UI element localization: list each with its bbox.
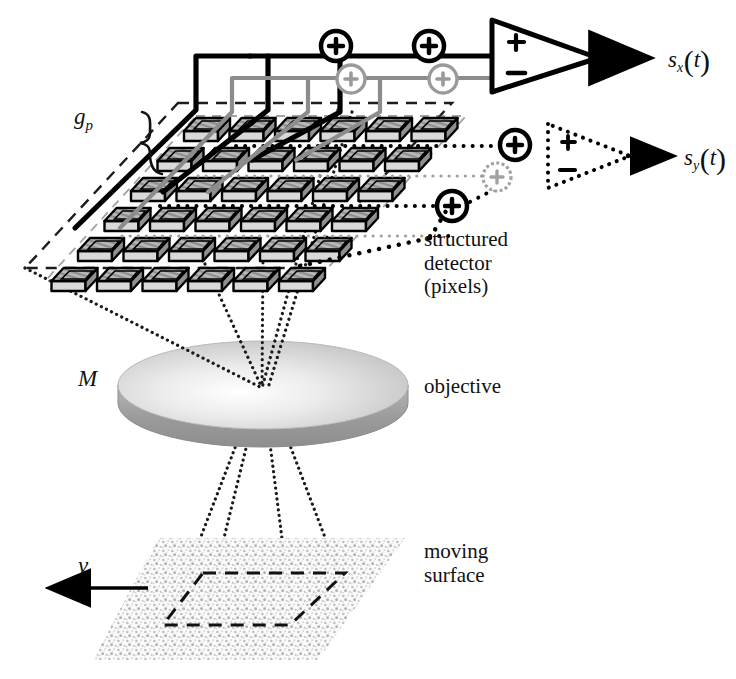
amplifier-y[interactable] — [548, 124, 672, 188]
signal-y-subscript: y — [693, 158, 700, 173]
detector-pixel — [124, 238, 170, 261]
figure-canvas: gp M v structured detector (pixels) obje… — [0, 0, 736, 679]
moving-surface-label: moving surface — [424, 540, 488, 587]
summing-junction-y-positive-1[interactable] — [500, 130, 530, 160]
diagram-svg — [0, 0, 736, 679]
detector-pixel — [234, 268, 280, 291]
signal-x-close-paren: ) — [700, 44, 710, 77]
signal-y-close-paren: ) — [716, 142, 726, 175]
detector-pixel — [196, 208, 242, 231]
summing-junction-y-negative-1[interactable] — [483, 163, 511, 191]
detector-pixel — [287, 208, 333, 231]
objective-label: objective — [424, 375, 501, 399]
detector-pixel — [150, 208, 196, 231]
detector-pixel — [268, 178, 314, 201]
pixel-pitch-label: gp — [74, 104, 93, 133]
detector-pixel — [385, 148, 431, 171]
detector-pixel — [143, 268, 189, 291]
signal-x-open-paren: ( — [684, 44, 694, 77]
detector-pixel — [279, 268, 325, 291]
velocity-label: v — [78, 553, 88, 579]
signal-x-label: sx(t) — [668, 44, 710, 78]
detector-pixel — [366, 118, 412, 141]
signal-x-subscript: x — [677, 60, 684, 75]
magnification-label: M — [78, 366, 97, 392]
detector-pixel — [169, 238, 215, 261]
detector-pixel — [52, 268, 98, 291]
moving-surface — [93, 538, 405, 660]
detector-pixel — [340, 148, 386, 171]
summing-junction-x-negative-2[interactable] — [429, 65, 457, 93]
signal-x-symbol: s — [668, 47, 677, 72]
detector-label: structured detector (pixels) — [424, 228, 508, 299]
summing-junction-y-positive-2[interactable] — [437, 191, 467, 221]
detector-pixel — [78, 238, 124, 261]
pixel-pitch-symbol: g — [74, 104, 86, 129]
detector-pixel — [222, 178, 268, 201]
detector-pixel — [241, 208, 287, 231]
detector-pixel — [359, 178, 405, 201]
detector-label-line1: structured — [424, 228, 508, 252]
detector-pixel — [188, 268, 234, 291]
detector-pixel — [203, 148, 249, 171]
detector-pixel — [332, 208, 378, 231]
moving-surface-label-line1: moving — [424, 540, 488, 564]
detector-pixel — [177, 178, 223, 201]
detector-label-line2: detector — [424, 252, 508, 276]
summing-junction-x-positive-2[interactable] — [414, 31, 444, 61]
moving-surface-label-line2: surface — [424, 564, 488, 588]
detector-label-line3: (pixels) — [424, 275, 508, 299]
amplifier-y-plus-icon — [562, 136, 575, 149]
amplifier-x[interactable] — [492, 20, 648, 92]
signal-y-symbol: s — [684, 145, 693, 170]
detector-pixel — [215, 238, 261, 261]
objective-lens — [118, 341, 408, 447]
summing-junction-x-positive-1[interactable] — [321, 31, 351, 61]
summing-junction-x-negative-1[interactable] — [337, 65, 365, 93]
detector-pixel — [97, 268, 143, 291]
pixel-pitch-subscript: p — [86, 117, 94, 133]
detector-pixel — [260, 238, 306, 261]
signal-y-open-paren: ( — [700, 142, 710, 175]
signal-y-label: sy(t) — [684, 142, 726, 176]
detector-pixel — [412, 118, 458, 141]
